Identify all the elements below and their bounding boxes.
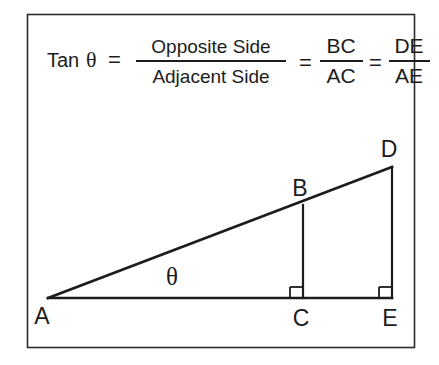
figure-canvas: Tan θ = Opposite Side Adjacent Side = BC… [0, 0, 439, 365]
tan-angle-symbol: θ [86, 47, 97, 72]
fraction-2-denominator: AC [326, 64, 355, 87]
equals-sign-1: = [108, 47, 121, 72]
fraction-3-numerator: DE [394, 34, 423, 57]
vertex-label-B: B [292, 175, 307, 201]
angle-theta-label: θ [166, 263, 178, 290]
tan-function-label: Tan [47, 49, 79, 71]
equals-sign-3: = [369, 50, 382, 75]
tangent-ratio-figure: Tan θ = Opposite Side Adjacent Side = BC… [0, 0, 439, 365]
fraction-1-numerator: Opposite Side [151, 36, 270, 57]
fraction-3-denominator: AE [395, 64, 423, 87]
fraction-2-numerator: BC [326, 34, 355, 57]
vertex-label-C: C [293, 305, 310, 331]
vertex-label-E: E [382, 305, 397, 331]
vertex-label-D: D [381, 136, 398, 162]
equals-sign-2: = [299, 50, 312, 75]
fraction-1-denominator: Adjacent Side [152, 66, 269, 87]
vertex-label-A: A [34, 303, 50, 329]
